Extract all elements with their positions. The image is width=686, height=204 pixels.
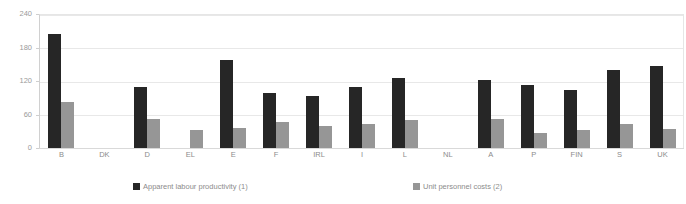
bar-a-series2 (491, 119, 504, 148)
bar-group-irl (298, 14, 341, 148)
bar-group-f (255, 14, 298, 148)
x-tick-label-s: S (598, 151, 641, 159)
y-tick-label: 60 (24, 111, 32, 119)
legend-label: Unit personnel costs (2) (423, 183, 502, 191)
bar-p-series2 (534, 133, 547, 148)
x-tick-label-i: I (341, 151, 384, 159)
legend-label: Apparent labour productivity (1) (143, 183, 248, 191)
y-tick-label: 120 (19, 77, 32, 85)
bar-group-p (512, 14, 555, 148)
legend-item-2[interactable]: Unit personnel costs (2) (413, 183, 502, 191)
bar-irl-series1 (306, 96, 319, 148)
bar-d-series1 (134, 87, 147, 148)
legend-item-1[interactable]: Apparent labour productivity (1) (133, 183, 248, 191)
bar-d-series2 (147, 119, 160, 148)
y-tick-mark (36, 48, 39, 49)
bar-uk-series2 (663, 129, 676, 148)
bar-group-dk (83, 14, 126, 148)
bar-i-series2 (362, 124, 375, 148)
bar-group-el (169, 14, 212, 148)
x-tick-label-p: P (512, 151, 555, 159)
x-tick-label-a: A (469, 151, 512, 159)
bar-i-series1 (349, 87, 362, 148)
x-axis-line (39, 148, 684, 149)
bar-el-series2 (190, 130, 203, 148)
bar-b-series2 (61, 102, 74, 148)
bar-group-container (40, 14, 684, 148)
y-tick-mark (36, 14, 39, 15)
bar-b-series1 (48, 34, 61, 148)
bar-fin-series1 (564, 90, 577, 148)
bar-group-uk (641, 14, 684, 148)
x-tick-label-dk: DK (83, 151, 126, 159)
bar-group-fin (555, 14, 598, 148)
x-tick-label-uk: UK (641, 151, 684, 159)
bar-irl-series2 (319, 126, 332, 148)
chart-legend: Apparent labour productivity (1)Unit per… (0, 183, 686, 197)
y-axis: 240 180 120 60 0 (0, 14, 36, 148)
y-tick-label: 180 (19, 44, 32, 52)
x-tick-label-irl: IRL (298, 151, 341, 159)
bar-group-d (126, 14, 169, 148)
x-tick-label-l: L (383, 151, 426, 159)
bar-group-e (212, 14, 255, 148)
bar-group-l (383, 14, 426, 148)
bar-group-a (469, 14, 512, 148)
bar-group-i (341, 14, 384, 148)
bar-uk-series1 (650, 66, 663, 148)
y-tick-label: 240 (19, 10, 32, 18)
bar-e-series1 (220, 60, 233, 148)
bar-chart: 240 180 120 60 0 BDKDELEFIRLILNLAPFINSUK… (0, 0, 686, 204)
bar-e-series2 (233, 128, 246, 148)
x-tick-label-fin: FIN (555, 151, 598, 159)
x-tick-label-e: E (212, 151, 255, 159)
x-tick-label-d: D (126, 151, 169, 159)
bar-l-series2 (405, 120, 418, 148)
bar-group-s (598, 14, 641, 148)
legend-swatch-icon (413, 183, 420, 190)
bar-f-series1 (263, 93, 276, 148)
bar-s-series1 (607, 70, 620, 148)
y-tick-mark (36, 115, 39, 116)
y-tick-mark (36, 81, 39, 82)
bar-p-series1 (521, 85, 534, 148)
x-axis-labels: BDKDELEFIRLILNLAPFINSUK (40, 151, 684, 165)
x-tick-label-b: B (40, 151, 83, 159)
y-tick-label: 0 (28, 144, 32, 152)
x-tick-label-el: EL (169, 151, 212, 159)
bar-s-series2 (620, 124, 633, 148)
bar-f-series2 (276, 122, 289, 148)
bar-group-nl (426, 14, 469, 148)
bar-l-series1 (392, 78, 405, 148)
legend-swatch-icon (133, 183, 140, 190)
bar-a-series1 (478, 80, 491, 148)
bar-group-b (40, 14, 83, 148)
x-tick-label-f: F (255, 151, 298, 159)
bar-fin-series2 (577, 130, 590, 148)
x-tick-label-nl: NL (426, 151, 469, 159)
y-tick-mark (36, 148, 39, 149)
